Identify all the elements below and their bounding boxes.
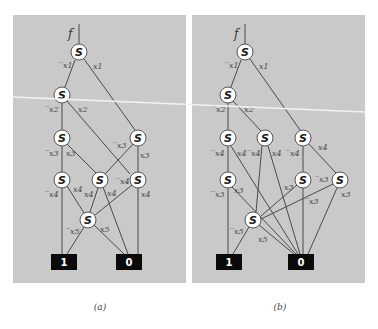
node-n3a: S <box>220 130 236 146</box>
label-not-x5: ‾x5 <box>66 227 80 236</box>
svg-text:0: 0 <box>298 257 305 268</box>
node-n2: S <box>220 87 236 103</box>
svg-text:S: S <box>261 132 269 145</box>
caption-b: (b) <box>274 302 287 312</box>
label-x4-a: x4 <box>73 185 83 194</box>
terminal-zero: 0 <box>288 254 314 270</box>
label-not-x3-a: ‾x3 <box>211 190 225 199</box>
label-not-x3-right: ‾x3 <box>113 141 127 150</box>
label-not-x4-a: ‾x4 <box>45 190 59 199</box>
svg-text:S: S <box>224 132 232 145</box>
svg-text:S: S <box>241 46 249 59</box>
label-x4-b: x4 <box>272 149 282 158</box>
node-n1: S <box>237 44 253 60</box>
label-x4-a: x4 <box>237 149 247 158</box>
label-not-x1: ‾x1 <box>225 61 239 70</box>
svg-text:S: S <box>134 132 142 145</box>
svg-text:S: S <box>58 132 66 145</box>
node-n2: S <box>54 87 70 103</box>
label-not-x1: ‾x1 <box>59 61 73 70</box>
node-n3b: S <box>130 130 146 146</box>
svg-text:S: S <box>224 174 232 187</box>
svg-text:1: 1 <box>226 257 233 268</box>
label-x2: x2 <box>78 105 88 114</box>
bdd-figure: f ‾x1 x1 ‾x2 x2 ‾x3 x3 ‾x3 x3 ‾x4 x4 x4 … <box>0 0 378 329</box>
node-n4a: S <box>220 172 236 188</box>
node-n3c: S <box>295 130 311 146</box>
svg-text:1: 1 <box>61 257 68 268</box>
label-not-x4-c: ‾x4 <box>286 149 300 158</box>
label-not-x2: ‾x2 <box>45 105 59 114</box>
svg-text:S: S <box>224 89 232 102</box>
label-not-x4-c: ‾x4 <box>116 177 130 186</box>
label-x3-c: x3 <box>341 190 351 199</box>
node-n4a: S <box>54 172 70 188</box>
label-x3-left: x3 <box>66 149 76 158</box>
node-n5: S <box>80 212 96 228</box>
node-n4b: S <box>92 172 108 188</box>
node-n3a: S <box>54 130 70 146</box>
label-x4-c: x4 <box>318 143 328 152</box>
svg-text:S: S <box>299 174 307 187</box>
svg-text:S: S <box>249 214 257 227</box>
label-not-x3-b: ‾x3 <box>305 197 319 206</box>
node-n3b: S <box>257 130 273 146</box>
label-not-x3-c: ‾x3 <box>315 175 329 184</box>
svg-text:S: S <box>75 46 83 59</box>
svg-text:S: S <box>336 174 344 187</box>
svg-text:S: S <box>96 174 104 187</box>
label-not-x3-left: ‾x3 <box>45 149 59 158</box>
node-n4b: S <box>295 172 311 188</box>
panel-b: f ‾x1 x1 ‾x2 x2 ‾x4 x4 ‾x4 x4 ‾x4 x4 ‾x3… <box>192 15 365 312</box>
node-n5: S <box>245 212 261 228</box>
terminal-zero: 0 <box>116 254 142 270</box>
node-n1: S <box>71 44 87 60</box>
terminal-one: 1 <box>51 254 77 270</box>
panel-a: f ‾x1 x1 ‾x2 x2 ‾x3 x3 ‾x3 x3 ‾x4 x4 x4 … <box>13 15 186 312</box>
label-x1: x1 <box>259 62 269 71</box>
label-x5: x5 <box>100 225 110 234</box>
node-n4c: S <box>332 172 348 188</box>
svg-text:S: S <box>58 89 66 102</box>
label-x4-b-right: x4 <box>107 189 117 198</box>
label-not-x4-b: ‾x4 <box>247 149 261 158</box>
label-x4-c: x4 <box>141 190 151 199</box>
panel-a-background <box>13 15 186 283</box>
terminal-one: 1 <box>216 254 242 270</box>
label-x5: x5 <box>258 235 268 244</box>
node-n4c: S <box>130 172 146 188</box>
label-x3-a: x3 <box>234 186 244 195</box>
svg-text:0: 0 <box>126 257 133 268</box>
svg-text:S: S <box>299 132 307 145</box>
svg-text:S: S <box>58 174 66 187</box>
label-x3-right: x3 <box>140 151 150 160</box>
svg-text:S: S <box>134 174 142 187</box>
label-x3-b: x3 <box>284 183 294 192</box>
label-x4-b-left: x4 <box>84 190 94 199</box>
svg-text:S: S <box>84 214 92 227</box>
label-not-x5: ‾x5 <box>230 227 244 236</box>
label-x1: x1 <box>93 62 103 71</box>
caption-a: (a) <box>94 302 107 312</box>
label-not-x4-a: ‾x4 <box>211 149 225 158</box>
